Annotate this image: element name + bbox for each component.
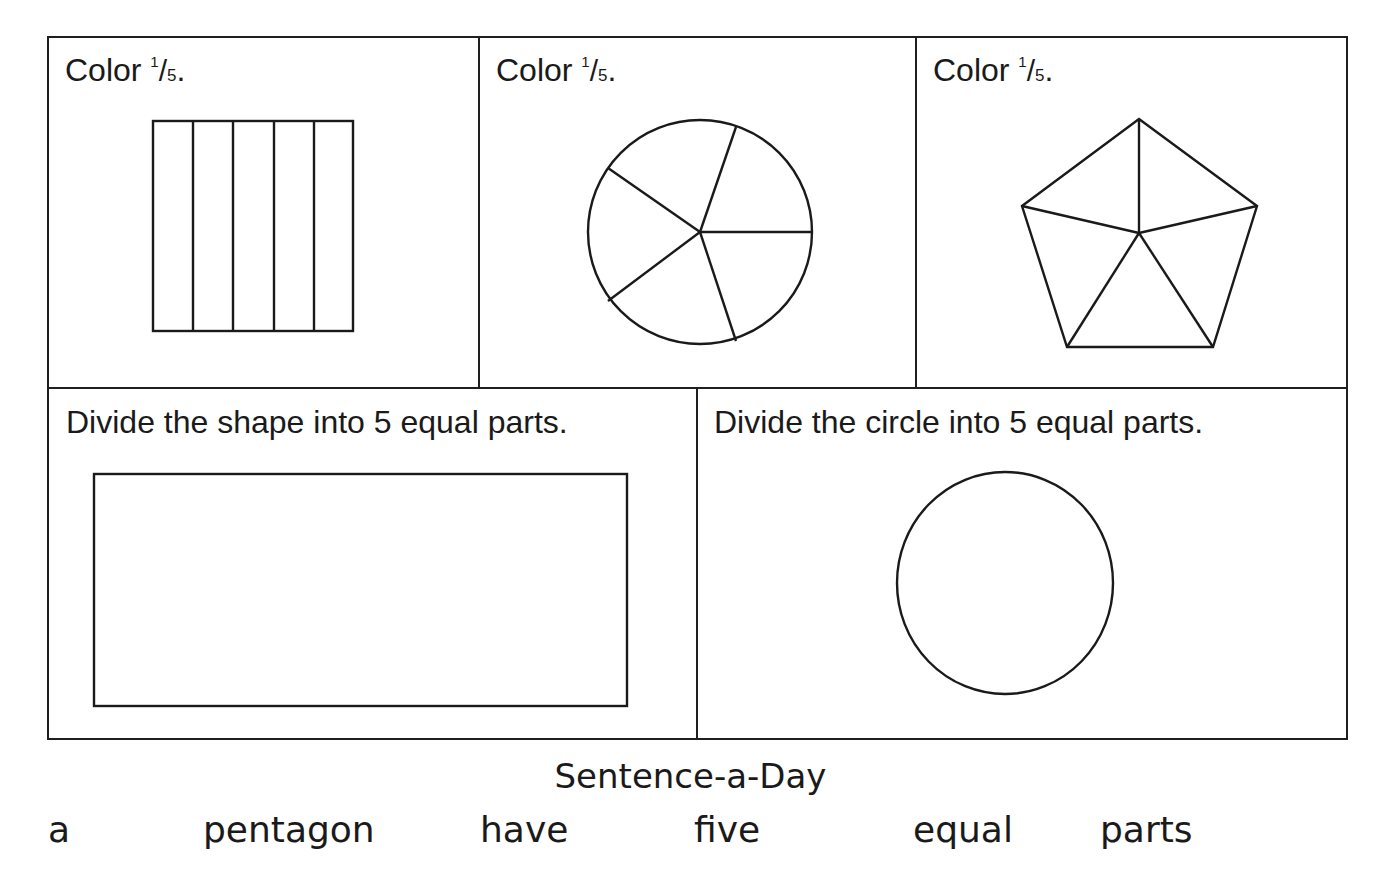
fraction-slash: / [590, 54, 598, 87]
rectangle-5-strips-shape[interactable] [152, 120, 354, 332]
panel-divide-rectangle: Divide the shape into 5 equal parts. [49, 389, 696, 738]
fraction: 1/5 [1018, 66, 1044, 85]
prompt-period: . [177, 52, 186, 88]
sentence-word[interactable]: equal [913, 812, 1013, 848]
circle-5-sectors-shape[interactable] [586, 116, 816, 352]
prompt-text: Color [496, 52, 572, 88]
sentence-word[interactable]: pentagon [203, 812, 375, 848]
panel-prompt: Divide the circle into 5 equal parts. [714, 406, 1203, 438]
sentence-word[interactable]: parts [1100, 812, 1193, 848]
fraction-denominator: 5 [598, 66, 607, 85]
fraction-numerator: 1 [1018, 53, 1026, 70]
prompt-text: Color [933, 52, 1009, 88]
fraction: 1/5 [581, 66, 607, 85]
fraction-denominator: 5 [167, 66, 176, 85]
fraction-slash: / [159, 54, 167, 87]
fraction-denominator: 5 [1035, 66, 1044, 85]
sentence-word[interactable]: a [48, 812, 70, 848]
panel-prompt: Divide the shape into 5 equal parts. [66, 406, 568, 438]
fraction-slash: / [1027, 54, 1035, 87]
panel-color-circle: Color 1/5. [480, 38, 915, 388]
sentence-word[interactable]: five [694, 812, 760, 848]
panel-color-pentagon: Color 1/5. [917, 38, 1346, 388]
panel-prompt: Color 1/5. [65, 54, 185, 86]
blank-circle-shape[interactable] [895, 470, 1117, 698]
fraction-numerator: 1 [581, 53, 589, 70]
panel-prompt: Color 1/5. [933, 54, 1053, 86]
blank-rectangle-shape[interactable] [93, 473, 629, 709]
worksheet-grid: Color 1/5. Color 1/5. Color 1/5. [47, 36, 1348, 740]
pentagon-5-triangles-shape[interactable] [1021, 118, 1261, 350]
panel-prompt: Color 1/5. [496, 54, 616, 86]
panel-color-rectangle: Color 1/5. [49, 38, 479, 388]
prompt-text: Color [65, 52, 141, 88]
fraction: 1/5 [150, 66, 176, 85]
panel-divide-circle: Divide the circle into 5 equal parts. [698, 389, 1346, 738]
prompt-period: . [1045, 52, 1054, 88]
prompt-period: . [608, 52, 617, 88]
fraction-numerator: 1 [150, 53, 158, 70]
sentence-a-day-title: Sentence-a-Day [0, 756, 1381, 796]
sentence-word[interactable]: have [480, 812, 568, 848]
